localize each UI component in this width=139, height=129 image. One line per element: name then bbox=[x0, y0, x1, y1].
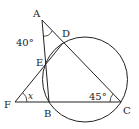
angle-label-F: x bbox=[28, 91, 33, 101]
angle-label-A: 40° bbox=[16, 37, 34, 48]
diagram-canvas: A D E F B C 40° 45° x bbox=[0, 0, 139, 129]
angle-arc-C bbox=[110, 94, 113, 102]
label-F: F bbox=[4, 99, 11, 110]
circle bbox=[43, 37, 128, 122]
angle-arc-F bbox=[23, 93, 27, 102]
label-A: A bbox=[32, 8, 41, 19]
segment-FD bbox=[15, 43, 63, 102]
geometry-diagram: A D E F B C 40° 45° x bbox=[0, 0, 139, 129]
label-D: D bbox=[62, 28, 70, 39]
angle-label-C: 45° bbox=[89, 91, 107, 102]
label-C: C bbox=[123, 105, 131, 116]
segment-AC bbox=[42, 20, 121, 102]
label-E: E bbox=[36, 57, 43, 68]
angle-arc-A bbox=[43, 31, 52, 36]
label-B: B bbox=[44, 108, 51, 119]
